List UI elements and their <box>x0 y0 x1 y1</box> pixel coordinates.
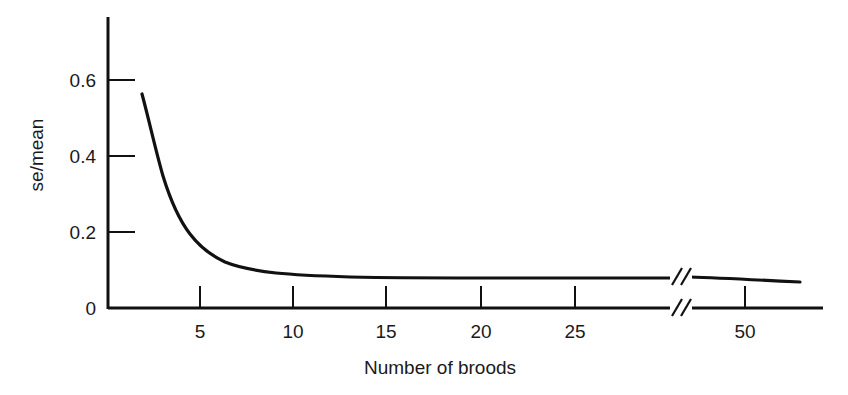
chart-figure: 0.6 0.4 0.2 0 5 10 15 20 25 50 se/mean N… <box>0 0 848 395</box>
x-tick-label-50: 50 <box>734 322 755 341</box>
curve-segment-left <box>142 94 672 278</box>
x-tick-label-25: 25 <box>564 322 585 341</box>
x-tick-label-20: 20 <box>470 322 491 341</box>
y-tick-label-0.6: 0.6 <box>50 71 96 90</box>
y-axis-title: se/mean <box>27 119 46 192</box>
x-tick-label-15: 15 <box>375 322 396 341</box>
x-axis-title: Number of broods <box>364 358 516 377</box>
curve-segment-right <box>690 277 800 282</box>
x-tick-label-10: 10 <box>282 322 303 341</box>
y-tick-label-0: 0 <box>50 299 96 318</box>
y-tick-label-0.4: 0.4 <box>50 147 96 166</box>
y-tick-label-0.2: 0.2 <box>50 223 96 242</box>
x-tick-label-5: 5 <box>195 322 206 341</box>
chart-plot-area <box>0 0 848 395</box>
